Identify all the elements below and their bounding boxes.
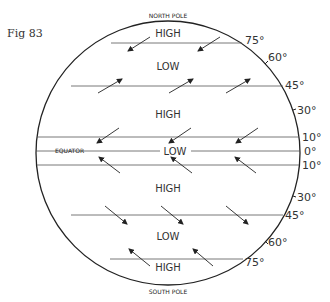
lat-label-45n: 45° [285,79,305,92]
tick-30s [293,196,296,197]
wind-arrow-trade-north-2 [169,128,191,143]
lat-label-30n: 30° [297,104,317,117]
wind-arrow-polar-south-1 [129,249,150,266]
lat-label-30s: 30° [297,191,317,204]
global-pressure-belts-diagram: NORTH POLE SOUTH POLE EQUATOR HIGH LOW H… [0,0,330,302]
wind-arrow-trade-north-1 [97,128,119,143]
zone-label-high-south: HIGH [155,183,181,194]
tick-30n [293,109,296,110]
equator-label: EQUATOR [55,147,84,154]
lat-label-75s: 75° [245,256,265,269]
wind-arrow-polar-south-2 [193,249,213,266]
zone-label-high-north: HIGH [155,109,181,120]
zone-label-low-equatorial: LOW [164,146,187,157]
wind-arrow-trade-north-3 [236,128,258,143]
lat-label-0: 0° [304,145,317,158]
lat-label-10s: 10° [302,159,322,172]
south-pole-label: SOUTH POLE [149,288,188,295]
zone-label-high-south-polar: HIGH [155,262,181,273]
north-pole-label: NORTH POLE [149,12,188,19]
lat-label-45s: 45° [285,209,305,222]
zone-label-low-south: LOW [157,231,180,242]
lat-label-60s: 60° [268,236,288,249]
lat-label-10n: 10° [302,131,322,144]
wind-arrow-polar-north-2 [198,37,220,51]
zone-label-high-north-polar: HIGH [155,28,181,39]
zone-label-low-north: LOW [157,61,180,72]
lat-label-60n: 60° [268,51,288,64]
wind-arrow-polar-north-1 [128,37,150,51]
lat-label-75n: 75° [245,34,265,47]
